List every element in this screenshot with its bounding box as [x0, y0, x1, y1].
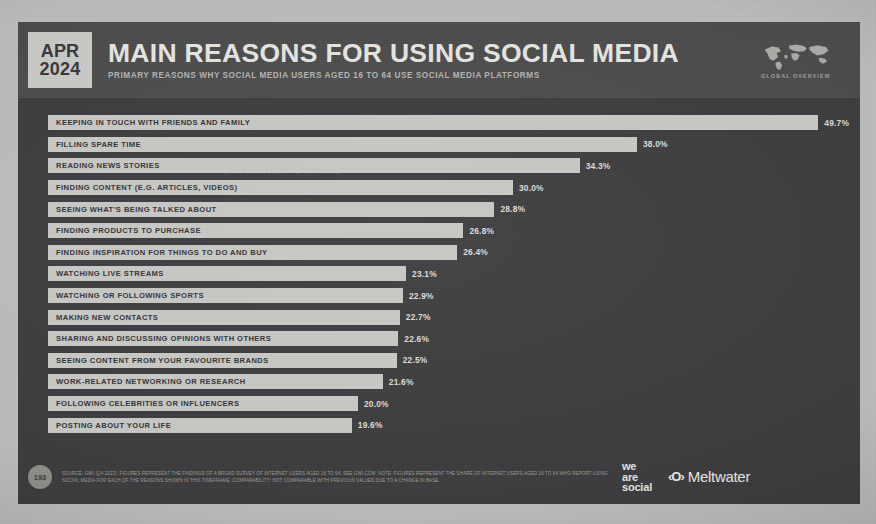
bar-category-label: FINDING PRODUCTS TO PURCHASE — [48, 226, 201, 235]
logo-group: we are social ‹O› Meltwater — [622, 461, 750, 493]
we-are-social-line-3: social — [622, 482, 652, 493]
bar-row: KEEPING IN TOUCH WITH FRIENDS AND FAMILY… — [48, 112, 860, 134]
bar-row: MAKING NEW CONTACTS22.7% — [48, 306, 860, 328]
bar: FINDING INSPIRATION FOR THINGS TO DO AND… — [48, 245, 457, 260]
slide-footer: 193 SOURCE: GWI (Q4 2023). FIGURES REPRE… — [18, 450, 860, 504]
date-badge-year: 2024 — [40, 60, 81, 78]
bar-value-label: 22.5% — [403, 355, 428, 365]
bar-row: SEEING WHAT'S BEING TALKED ABOUT28.8% — [48, 198, 860, 220]
bar-value-label: 22.9% — [409, 291, 434, 301]
bar-category-label: FINDING INSPIRATION FOR THINGS TO DO AND… — [48, 248, 268, 257]
bar-row: SEEING CONTENT FROM YOUR FAVOURITE BRAND… — [48, 350, 860, 372]
slide: APR 2024 MAIN REASONS FOR USING SOCIAL M… — [18, 22, 860, 504]
bar: WATCHING OR FOLLOWING SPORTS — [48, 288, 403, 303]
bar-row: WATCHING OR FOLLOWING SPORTS22.9% — [48, 285, 860, 307]
bar: SHARING AND DISCUSSING OPINIONS WITH OTH… — [48, 331, 398, 346]
bar: POSTING ABOUT YOUR LIFE — [48, 418, 352, 433]
page-subtitle: PRIMARY REASONS WHY SOCIAL MEDIA USERS A… — [108, 71, 742, 80]
bar-category-label: FILLING SPARE TIME — [48, 140, 141, 149]
bar-category-label: READING NEWS STORIES — [48, 161, 160, 170]
page-number-badge: 193 — [28, 465, 52, 489]
bar: MAKING NEW CONTACTS — [48, 310, 400, 325]
bar-row: FINDING CONTENT (E.G. ARTICLES, VIDEOS)3… — [48, 177, 860, 199]
source-note: SOURCE: GWI (Q4 2023). FIGURES REPRESENT… — [62, 470, 622, 485]
bar-category-label: WATCHING LIVE STREAMS — [48, 269, 164, 278]
meltwater-wordmark: Meltwater — [688, 468, 750, 485]
bar-chart: KEEPING IN TOUCH WITH FRIENDS AND FAMILY… — [18, 98, 860, 450]
bar-value-label: 26.8% — [469, 226, 494, 236]
bar-row: FINDING INSPIRATION FOR THINGS TO DO AND… — [48, 242, 860, 264]
bar-value-label: 23.1% — [412, 269, 437, 279]
bar-category-label: MAKING NEW CONTACTS — [48, 313, 158, 322]
bar: FILLING SPARE TIME — [48, 137, 637, 152]
date-badge-month: APR — [41, 42, 80, 60]
bar-row: FOLLOWING CELEBRITIES OR INFLUENCERS20.0… — [48, 393, 860, 415]
slide-header: APR 2024 MAIN REASONS FOR USING SOCIAL M… — [18, 22, 860, 98]
bar-value-label: 22.7% — [406, 312, 431, 322]
bar-row: FINDING PRODUCTS TO PURCHASE26.8% — [48, 220, 860, 242]
bar-category-label: FOLLOWING CELEBRITIES OR INFLUENCERS — [48, 399, 239, 408]
world-map-icon — [760, 41, 832, 71]
bar-value-label: 28.8% — [500, 204, 525, 214]
bar-row: POSTING ABOUT YOUR LIFE19.6% — [48, 414, 860, 436]
global-overview-label: GLOBAL OVERVIEW — [761, 73, 831, 79]
bar: FINDING PRODUCTS TO PURCHASE — [48, 223, 463, 238]
bar-value-label: 34.3% — [586, 161, 611, 171]
bar: FINDING CONTENT (E.G. ARTICLES, VIDEOS) — [48, 180, 513, 195]
bar-value-label: 21.6% — [389, 377, 414, 387]
bar-category-label: SEEING WHAT'S BEING TALKED ABOUT — [48, 205, 217, 214]
meltwater-logo: ‹O› Meltwater — [668, 468, 750, 485]
bar-row: WORK-RELATED NETWORKING OR RESEARCH21.6% — [48, 371, 860, 393]
bar-category-label: WORK-RELATED NETWORKING OR RESEARCH — [48, 377, 246, 386]
bar-row: WATCHING LIVE STREAMS23.1% — [48, 263, 860, 285]
bar-category-label: KEEPING IN TOUCH WITH FRIENDS AND FAMILY — [48, 118, 250, 127]
bar-value-label: 30.0% — [519, 183, 544, 193]
title-block: MAIN REASONS FOR USING SOCIAL MEDIA PRIM… — [108, 40, 742, 81]
bar: READING NEWS STORIES — [48, 158, 580, 173]
bar: SEEING CONTENT FROM YOUR FAVOURITE BRAND… — [48, 353, 397, 368]
bar-category-label: WATCHING OR FOLLOWING SPORTS — [48, 291, 204, 300]
bar-value-label: 22.6% — [404, 334, 429, 344]
we-are-social-logo: we are social — [622, 461, 652, 493]
bar: KEEPING IN TOUCH WITH FRIENDS AND FAMILY — [48, 115, 818, 130]
bar-category-label: SEEING CONTENT FROM YOUR FAVOURITE BRAND… — [48, 356, 269, 365]
bar-row: READING NEWS STORIES34.3% — [48, 155, 860, 177]
bar: WATCHING LIVE STREAMS — [48, 266, 406, 281]
global-overview-badge: GLOBAL OVERVIEW — [742, 41, 850, 79]
bar-category-label: FINDING CONTENT (E.G. ARTICLES, VIDEOS) — [48, 183, 237, 192]
bar-value-label: 20.0% — [364, 399, 389, 409]
bar-value-label: 49.7% — [824, 118, 849, 128]
bar-value-label: 38.0% — [643, 139, 668, 149]
bar-row: SHARING AND DISCUSSING OPINIONS WITH OTH… — [48, 328, 860, 350]
photo-frame: APR 2024 MAIN REASONS FOR USING SOCIAL M… — [0, 0, 876, 524]
bar-row: FILLING SPARE TIME38.0% — [48, 134, 860, 156]
bar: SEEING WHAT'S BEING TALKED ABOUT — [48, 202, 494, 217]
bar: WORK-RELATED NETWORKING OR RESEARCH — [48, 374, 383, 389]
bar-category-label: SHARING AND DISCUSSING OPINIONS WITH OTH… — [48, 334, 271, 343]
bar-value-label: 26.4% — [463, 247, 488, 257]
bar-category-label: POSTING ABOUT YOUR LIFE — [48, 421, 171, 430]
page-title: MAIN REASONS FOR USING SOCIAL MEDIA — [108, 40, 742, 67]
meltwater-mark-icon: ‹O› — [668, 469, 684, 484]
bar: FOLLOWING CELEBRITIES OR INFLUENCERS — [48, 396, 358, 411]
bar-value-label: 19.6% — [358, 420, 383, 430]
date-badge: APR 2024 — [28, 32, 92, 88]
